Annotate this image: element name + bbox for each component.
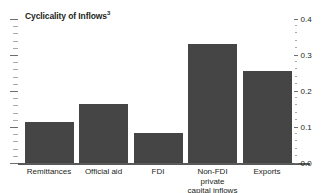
right-axis-minor-tick (295, 32, 297, 33)
bar-slot (22, 19, 76, 163)
y-axis-tick-label: 0.0 (301, 158, 312, 167)
left-axis-minor-tick (13, 26, 18, 27)
right-axis-minor-tick (295, 104, 297, 105)
left-axis-minor-tick (13, 62, 18, 63)
right-axis-minor-tick (295, 112, 297, 113)
x-axis-label-line: Official aid (85, 167, 122, 176)
tick-mark (294, 91, 298, 92)
x-axis-label-exports: Exports (240, 167, 294, 193)
y-axis-tick-label: 0.3 (301, 50, 312, 59)
left-axis-minor-tick (13, 33, 18, 34)
category-axis-labels: Remittances Official aid FDI Non-FDI pri… (22, 167, 294, 193)
right-axis-minor-tick (295, 61, 297, 62)
left-axis-minor-tick (13, 98, 18, 99)
right-axis-minor-tick (295, 97, 297, 98)
right-axis-minor-tick (295, 119, 297, 120)
right-value-axis: 0.0 0.1 0.2 0.3 0.4 (294, 19, 332, 163)
left-axis-major-tick (10, 127, 18, 128)
value-axis-baseline (18, 163, 310, 165)
left-axis-major-tick (10, 91, 18, 92)
x-axis-label-line: FDI (152, 167, 165, 176)
left-axis-minor-tick (13, 149, 18, 150)
y-axis-tick-label: 0.4 (301, 14, 312, 23)
right-axis-minor-tick (295, 68, 297, 69)
tick-mark (294, 127, 298, 128)
left-axis-minor-tick (13, 48, 18, 49)
cyclicality-of-inflows-bar-chart: Cyclicality of Inflows3 0.0 0.1 (0, 0, 332, 193)
left-axis-minor-tick (13, 41, 18, 42)
tick-mark (294, 19, 298, 20)
bar-slot (186, 19, 240, 163)
bar-series (22, 19, 294, 163)
left-axis-major-tick (10, 55, 18, 56)
left-axis-minor-tick (13, 156, 18, 157)
x-axis-label-fdi: FDI (131, 167, 185, 193)
left-axis-minor-tick (13, 113, 18, 114)
x-axis-label-line: capital inflows (186, 186, 240, 193)
bar-slot (77, 19, 131, 163)
x-axis-label-official-aid: Official aid (77, 167, 131, 193)
right-axis-minor-tick (295, 83, 297, 84)
bar-official-aid (79, 104, 128, 163)
left-axis-major-tick (10, 19, 18, 20)
left-axis-minor-tick (13, 120, 18, 121)
right-axis-minor-tick (295, 40, 297, 41)
y-axis-tick-label: 0.2 (301, 86, 312, 95)
right-axis-minor-tick (295, 76, 297, 77)
left-axis-minor-tick (13, 69, 18, 70)
left-axis-minor-tick (13, 105, 18, 106)
x-axis-label-line: Non-FDI private (197, 167, 227, 186)
right-axis-minor-tick (295, 155, 297, 156)
x-axis-label-line: Remittances (27, 167, 71, 176)
bar-fdi (134, 133, 183, 163)
bar-slot (240, 19, 294, 163)
bar-slot (131, 19, 185, 163)
x-axis-label-remittances: Remittances (22, 167, 76, 193)
left-axis-minor-tick (13, 77, 18, 78)
left-axis-minor-tick (13, 84, 18, 85)
right-axis-minor-tick (295, 133, 297, 134)
x-axis-label-line: Exports (253, 167, 280, 176)
bar-remittances (25, 122, 74, 163)
right-axis-minor-tick (295, 140, 297, 141)
bar-exports (243, 71, 292, 163)
tick-mark (294, 163, 298, 164)
chart-title-footnote-marker: 3 (107, 10, 110, 16)
left-axis-minor-tick (13, 134, 18, 135)
y-axis-tick-label: 0.1 (301, 122, 312, 131)
left-axis-major-tick (10, 163, 18, 164)
left-axis-minor-tick (13, 141, 18, 142)
tick-mark (294, 55, 298, 56)
x-axis-label-non-fdi-private-capital-inflows: Non-FDI private capital inflows (186, 167, 240, 193)
right-axis-minor-tick (295, 148, 297, 149)
right-axis-minor-tick (295, 47, 297, 48)
bar-non-fdi-private-capital-inflows (188, 44, 237, 163)
right-axis-minor-tick (295, 25, 297, 26)
